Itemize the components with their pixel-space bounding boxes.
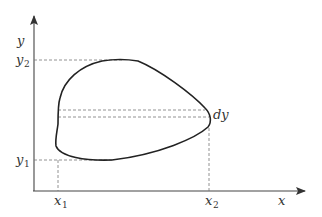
svg-text:2: 2 [24, 59, 30, 69]
x2-tick-label: x 2 [205, 193, 219, 210]
svg-text:x: x [54, 193, 62, 208]
y1-tick-label: y 1 [15, 152, 30, 169]
y-axis-label: y [16, 33, 25, 48]
dy-label: dy [213, 107, 229, 122]
svg-text:x: x [205, 193, 213, 208]
svg-text:1: 1 [24, 159, 30, 169]
svg-text:1: 1 [62, 200, 68, 210]
svg-text:y: y [15, 52, 24, 67]
closed-curve-diagram: y x y 2 y 1 x 1 x 2 dy [0, 0, 322, 217]
svg-text:y: y [15, 152, 24, 167]
y2-tick-label: y 2 [15, 52, 30, 69]
svg-text:2: 2 [213, 200, 219, 210]
x-axis-label: x [278, 193, 286, 208]
x1-tick-label: x 1 [54, 193, 68, 210]
